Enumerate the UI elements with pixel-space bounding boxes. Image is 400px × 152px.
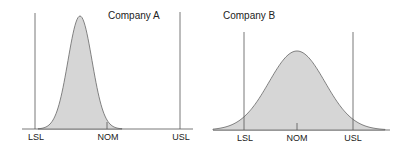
nom-label-a: NOM [98, 132, 119, 142]
lsl-label-a: LSL [28, 132, 44, 142]
chart-title-b: Company B [223, 10, 275, 21]
chart-company-a [22, 12, 193, 129]
usl-label-b: USL [344, 133, 362, 143]
nom-label-b: NOM [287, 133, 308, 143]
chart-company-b [213, 32, 390, 130]
chart-title-a: Company A [108, 10, 160, 21]
usl-label-a: USL [172, 132, 190, 142]
charts-canvas [0, 0, 400, 152]
distribution-curve-a [38, 16, 122, 129]
lsl-label-b: LSL [237, 133, 253, 143]
distribution-curve-b [213, 51, 385, 130]
